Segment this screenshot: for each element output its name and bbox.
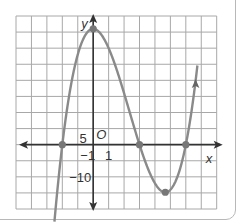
function-graph: y x O −1 1 5 −10: [0, 0, 240, 222]
marked-point-local-maximum: [90, 25, 97, 32]
y-tick-label-5: 5: [80, 131, 87, 146]
x-tick-label-neg1: −1: [80, 148, 95, 163]
marked-point-local-minimum: [162, 189, 169, 196]
marked-point-x-intercept: [136, 141, 143, 148]
x-tick-label-1: 1: [105, 148, 112, 163]
y-axis-label: y: [80, 16, 89, 31]
labels: y x O −1 1 5 −10: [69, 16, 213, 185]
grid: [16, 16, 217, 209]
y-tick-label-neg10: −10: [69, 170, 91, 185]
marked-point-x-intercept: [182, 141, 189, 148]
x-axis-label: x: [205, 151, 213, 166]
origin-label: O: [96, 127, 106, 142]
marked-point-x-intercept: [59, 141, 66, 148]
